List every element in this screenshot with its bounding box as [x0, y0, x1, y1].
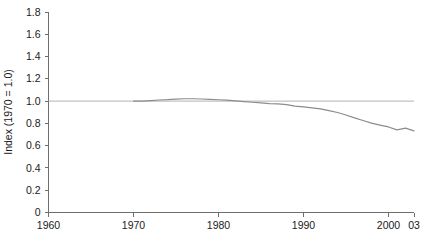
line-chart: Index (1970 = 1.0) 00.20.40.60.81.01.21.… [0, 0, 430, 242]
x-tick-label: 1960 [37, 219, 61, 231]
y-tick-label: 1.0 [26, 95, 41, 107]
x-tick-label: 2000 [377, 219, 401, 231]
y-tick-label: 0.4 [26, 162, 41, 174]
y-tick-label: 1.2 [26, 72, 41, 84]
cropped-footer-text [0, 235, 430, 242]
x-tick-label: 1990 [292, 219, 316, 231]
y-axis-title: Index (1970 = 1.0) [2, 69, 14, 155]
y-tick-label: 0.8 [26, 117, 41, 129]
x-axis-ticks: 1960197019801990200003 [37, 213, 420, 231]
x-tick-label: 1980 [207, 219, 231, 231]
y-axis-title-group: Index (1970 = 1.0) [2, 69, 14, 155]
y-tick-label: 0.6 [26, 139, 41, 151]
y-tick-label: 1.6 [26, 28, 41, 40]
y-tick-label: 0 [35, 206, 41, 218]
y-tick-label: 1.8 [26, 6, 41, 18]
y-tick-label: 0.2 [26, 184, 41, 196]
x-tick-label: 1970 [122, 219, 146, 231]
y-tick-label: 1.4 [26, 50, 41, 62]
x-tick-label: 03 [408, 219, 420, 231]
data-series-index [134, 99, 415, 131]
chart-figure: Index (1970 = 1.0) 00.20.40.60.81.01.21.… [0, 0, 430, 242]
y-axis-ticks: 00.20.40.60.81.01.21.41.61.8 [26, 6, 49, 219]
